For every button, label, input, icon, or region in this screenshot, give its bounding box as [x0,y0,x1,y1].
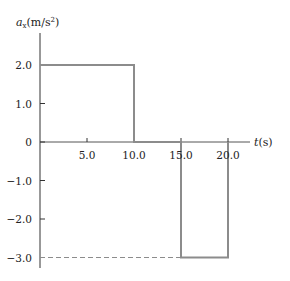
y-tick-label: −1.0 [0,176,32,187]
x-tick-label: 15.0 [166,150,196,161]
x-tick-label: 5.0 [72,150,102,161]
y-axis-title: ax(m/s2) [16,16,59,30]
acceleration-step-series [40,65,228,258]
y-tick-label: 1.0 [0,99,32,110]
x-axis-title: t(s) [254,136,273,149]
y-ticks [40,65,45,258]
y-tick-label: −3.0 [0,253,32,264]
acceleration-time-chart [0,0,290,281]
y-tick-label: −2.0 [0,214,32,225]
x-tick-label: 20.0 [213,150,243,161]
y-tick-label: 2.0 [0,60,32,71]
x-tick-label: 10.0 [119,150,149,161]
y-tick-label: 0 [0,137,32,148]
